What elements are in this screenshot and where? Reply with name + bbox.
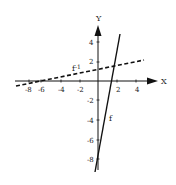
x-axis-label: X bbox=[161, 77, 167, 86]
x-tick-label: 2 bbox=[116, 86, 120, 94]
f-inverse-label: f-1 bbox=[72, 63, 81, 73]
y-tick-label: -6 bbox=[87, 137, 94, 145]
x-tick-label: -8 bbox=[25, 86, 32, 94]
y-tick-label: 2 bbox=[89, 58, 93, 66]
y-axis-label: Y bbox=[95, 14, 102, 23]
graph: X Y -8 -6 -4 -2 2 4 4 2 -2 -4 -6 -8 f f-… bbox=[0, 0, 176, 185]
f-label: f bbox=[109, 114, 113, 123]
x-axis-arrow-icon bbox=[147, 78, 158, 85]
x-tick-label: -2 bbox=[77, 86, 84, 94]
x-tick-label: -6 bbox=[38, 86, 45, 94]
x-tick-label: -4 bbox=[58, 86, 65, 94]
x-tick-label: 4 bbox=[135, 86, 140, 94]
y-tick-label: 4 bbox=[89, 39, 94, 47]
y-tick-label: -4 bbox=[87, 117, 94, 125]
y-axis-arrow-icon bbox=[95, 25, 102, 36]
y-tick-label: -8 bbox=[87, 156, 94, 164]
y-tick-label: -2 bbox=[87, 97, 94, 105]
f-line bbox=[95, 34, 120, 172]
